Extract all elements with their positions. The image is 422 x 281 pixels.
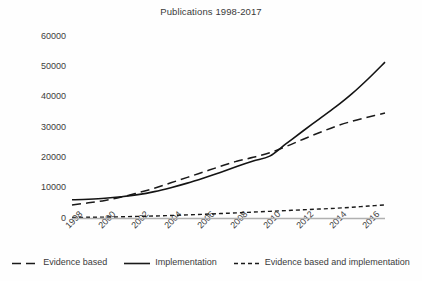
legend-label: Implementation <box>155 258 217 267</box>
plot-area <box>0 0 422 281</box>
legend-label: Evidence based and implementation <box>265 258 410 267</box>
publications-line-chart: Publications 1998-2017 01000020000300004… <box>0 0 422 281</box>
legend-item[interactable]: Evidence based and implementation <box>234 258 410 267</box>
series-line <box>72 62 385 200</box>
legend-line-swatch <box>124 259 150 266</box>
legend-label: Evidence based <box>43 258 107 267</box>
series-layer <box>72 62 385 217</box>
series-line <box>72 205 385 217</box>
series-line <box>72 113 385 205</box>
legend-item[interactable]: Implementation <box>124 258 217 267</box>
chart-legend: Evidence basedImplementationEvidence bas… <box>0 258 422 267</box>
legend-item[interactable]: Evidence based <box>12 258 107 267</box>
legend-line-swatch <box>234 259 260 266</box>
legend-line-swatch <box>12 259 38 266</box>
